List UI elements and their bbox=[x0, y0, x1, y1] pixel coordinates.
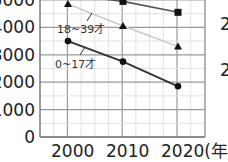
y-tick-label: 0 bbox=[24, 127, 35, 147]
square-marker bbox=[175, 9, 182, 16]
annotation-18-39: 18~39才 bbox=[57, 22, 105, 36]
annotation-0-17: 0~17才 bbox=[55, 57, 96, 71]
edge-fragment-text: 2 bbox=[220, 60, 228, 80]
triangle-marker bbox=[64, 0, 72, 7]
line-chart: 010002000300040005000200020102020(年)18~3… bbox=[0, 0, 228, 162]
y-tick-label: 5000 bbox=[0, 0, 35, 10]
circle-marker bbox=[65, 38, 72, 45]
x-tick-label: 2020(年) bbox=[161, 141, 228, 161]
edge-fragment-text: 2 bbox=[220, 14, 228, 34]
x-tick-label: 2000 bbox=[51, 141, 94, 161]
y-tick-label: 1000 bbox=[0, 100, 35, 120]
square-marker bbox=[120, 0, 127, 5]
circle-marker bbox=[175, 83, 182, 90]
y-tick-label: 2000 bbox=[0, 72, 35, 92]
circle-marker bbox=[120, 58, 127, 65]
x-tick-label: 2010 bbox=[106, 141, 149, 161]
y-tick-label: 4000 bbox=[0, 17, 35, 37]
y-tick-label: 3000 bbox=[0, 45, 35, 65]
